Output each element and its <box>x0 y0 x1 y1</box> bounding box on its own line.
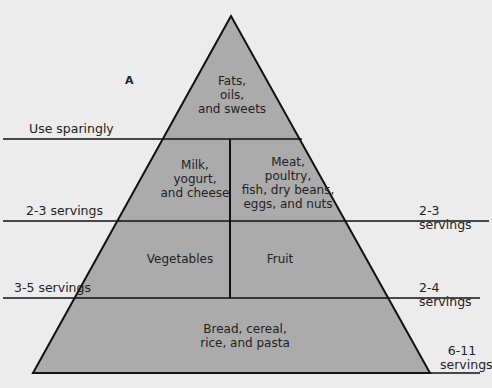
tier-text: Meat, <box>228 155 348 169</box>
tier-text: and cheese <box>160 186 230 200</box>
tier-text: Bread, cereal, <box>175 322 315 336</box>
servings-bread: 6-11 servings <box>440 344 484 372</box>
tier-text: eggs, and nuts <box>228 197 348 211</box>
servings-vegetables: 3-5 servings <box>14 281 91 295</box>
tier-text: fish, dry beans, <box>228 183 348 197</box>
tier-text: oils, <box>190 88 274 102</box>
tier-fats: Fats, oils, and sweets <box>190 74 274 116</box>
tier-vegetables: Vegetables <box>130 252 230 266</box>
tier-text: rice, and pasta <box>175 336 315 350</box>
tier-text: and sweets <box>190 102 274 116</box>
tier-meat: Meat, poultry, fish, dry beans, eggs, an… <box>228 155 348 211</box>
tier-text: Milk, <box>160 158 230 172</box>
servings-fats: Use sparingly <box>29 122 114 136</box>
tier-text: yogurt, <box>160 172 230 186</box>
servings-fruit: 2-4 servings <box>419 281 492 309</box>
servings-text: 6-11 <box>440 344 484 358</box>
tier-fruit: Fruit <box>240 252 320 266</box>
tier-milk: Milk, yogurt, and cheese <box>160 158 230 200</box>
servings-text: servings <box>440 358 484 372</box>
tier-bread: Bread, cereal, rice, and pasta <box>175 322 315 350</box>
tier-text: Fats, <box>190 74 274 88</box>
servings-milk: 2-3 servings <box>26 204 103 218</box>
tier-text: poultry, <box>228 169 348 183</box>
servings-meat: 2-3 servings <box>419 204 492 232</box>
panel-label: A <box>125 74 134 87</box>
